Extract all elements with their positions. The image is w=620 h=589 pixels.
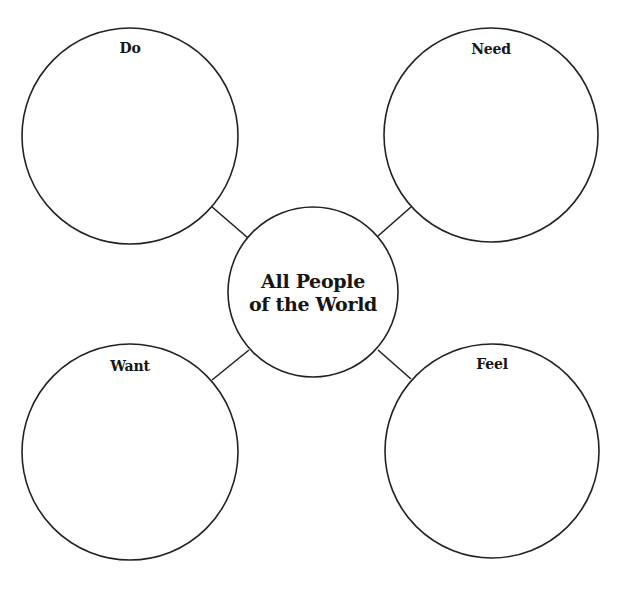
label-do: Do (119, 40, 140, 56)
connector-feel (378, 350, 411, 379)
center-title: All People of the World (249, 270, 377, 316)
label-need: Need (471, 41, 511, 57)
circle-want[interactable] (22, 344, 238, 560)
connector-want (212, 350, 249, 380)
label-feel: Feel (476, 356, 508, 372)
connector-do (211, 206, 248, 238)
circle-do[interactable] (22, 28, 238, 244)
circle-need[interactable] (384, 28, 598, 242)
label-want: Want (110, 358, 149, 374)
center-title-line-1: All People (249, 270, 377, 293)
circle-feel[interactable] (385, 344, 599, 558)
connector-need (378, 207, 411, 236)
center-title-line-2: of the World (249, 293, 377, 316)
